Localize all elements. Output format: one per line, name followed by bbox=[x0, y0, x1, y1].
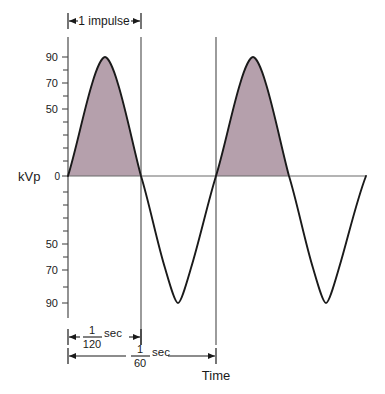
y-label-neg-90: 90 bbox=[46, 297, 58, 309]
full-period-unit: sec bbox=[152, 346, 170, 358]
half-period-annotation: 1 120 sec bbox=[68, 324, 141, 350]
impulse-arrowhead-left bbox=[69, 18, 76, 24]
shaded-area-impulse-3 bbox=[216, 57, 289, 176]
y-label-90: 90 bbox=[46, 51, 58, 63]
waveform-chart-svg: 90 70 50 0 50 70 90 kVp 1 impulse bbox=[0, 0, 385, 394]
half-period-numerator: 1 bbox=[89, 324, 95, 336]
y-axis-tick-labels: 90 70 50 0 50 70 90 bbox=[46, 51, 61, 309]
half-period-arrowhead-right bbox=[133, 334, 140, 340]
impulse-arrowhead-right bbox=[133, 18, 140, 24]
full-period-numerator: 1 bbox=[137, 343, 143, 355]
y-label-0: 0 bbox=[54, 171, 60, 182]
half-period-unit: sec bbox=[104, 327, 122, 339]
full-period-arrowhead-right bbox=[208, 353, 215, 359]
half-period-arrowhead-left bbox=[69, 334, 76, 340]
y-label-neg-50: 50 bbox=[46, 238, 58, 250]
full-period-arrowhead-left bbox=[69, 353, 76, 359]
impulse-span-label: 1 impulse bbox=[78, 14, 130, 28]
y-label-50: 50 bbox=[46, 103, 58, 115]
x-axis-title: Time bbox=[202, 368, 230, 383]
impulse-span-annotation: 1 impulse bbox=[68, 13, 141, 29]
y-label-neg-70: 70 bbox=[46, 264, 58, 276]
full-period-denominator: 60 bbox=[134, 357, 146, 369]
shaded-impulse-areas bbox=[68, 57, 289, 176]
shaded-area-impulse-1 bbox=[68, 57, 141, 176]
chart-figure: 90 70 50 0 50 70 90 kVp 1 impulse bbox=[0, 0, 385, 394]
y-label-70: 70 bbox=[46, 77, 58, 89]
half-period-denominator: 120 bbox=[83, 338, 101, 350]
y-axis-ticks bbox=[62, 57, 68, 303]
y-axis-title: kVp bbox=[18, 169, 40, 184]
